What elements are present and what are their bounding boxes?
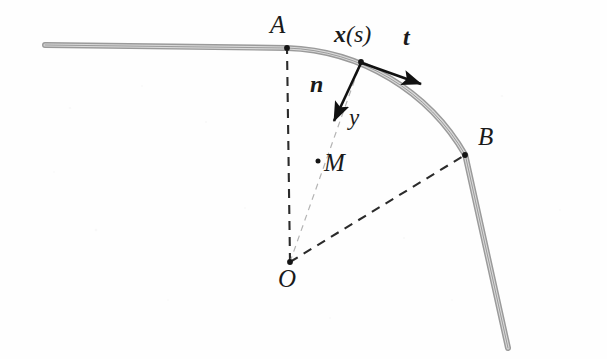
point-a-dot (284, 45, 290, 51)
scan-texture (53, 85, 561, 319)
rod-body (45, 45, 508, 348)
label-normal-vector: n (310, 72, 323, 96)
rod-centerline (45, 45, 508, 348)
label-tangent-vector: t (403, 25, 410, 49)
label-position-vector-arg: (s) (346, 21, 371, 47)
figure-canvas: A x(s) t n y M B O (0, 0, 607, 359)
rod-core (45, 45, 508, 348)
radius-line-OB (290, 155, 465, 262)
label-transverse-coordinate: y (349, 106, 359, 129)
radius-line-OA (287, 48, 290, 262)
label-position-vector: x(s) (334, 22, 371, 46)
label-point-a: A (270, 12, 285, 37)
diagram-svg (0, 0, 607, 359)
rod-outer (45, 45, 508, 348)
point-xs-dot (358, 59, 364, 65)
label-position-vector-symbol: x (334, 21, 346, 47)
label-point-b: B (478, 124, 493, 149)
point-b-dot (462, 152, 468, 158)
point-m-dot (316, 159, 321, 164)
label-point-o: O (278, 266, 296, 291)
label-point-m: M (324, 150, 345, 175)
